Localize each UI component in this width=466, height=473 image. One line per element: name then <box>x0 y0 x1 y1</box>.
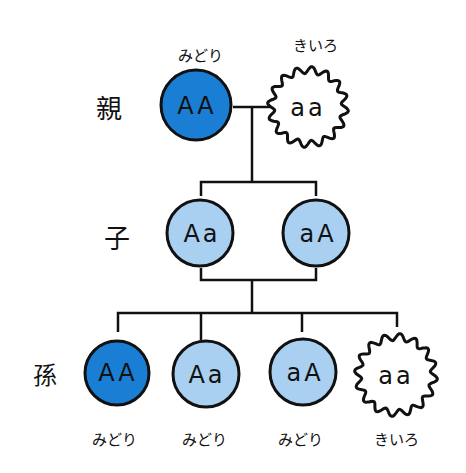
pedigree-lines <box>0 0 466 473</box>
generation-label-child: 子 <box>104 218 130 255</box>
grandchild-genotype-1: AA <box>98 359 138 387</box>
grandchild-phenotype-label-1: みどり <box>92 428 137 449</box>
grandchild-genotype-2: Aa <box>188 361 225 389</box>
parent-phenotype-label-2: きいろ <box>293 34 338 55</box>
grandchild-genotype-4: aa <box>378 362 413 390</box>
child-genotype-2: aA <box>299 220 336 248</box>
child-genotype-1: Aa <box>183 220 220 248</box>
grandchild-phenotype-label-3: みどり <box>278 428 323 449</box>
grandchild-phenotype-label-2: みどり <box>182 428 227 449</box>
generation-label-parent: 親 <box>96 88 122 125</box>
parent-genotype-2: aa <box>290 94 325 122</box>
parent-phenotype-label-1: みどり <box>178 44 223 65</box>
generation-label-grandchild: 孫 <box>33 356 57 391</box>
parent-genotype-1: AA <box>177 92 217 120</box>
grandchild-phenotype-label-4: きいろ <box>374 428 419 449</box>
grandchild-genotype-3: aA <box>286 359 323 387</box>
